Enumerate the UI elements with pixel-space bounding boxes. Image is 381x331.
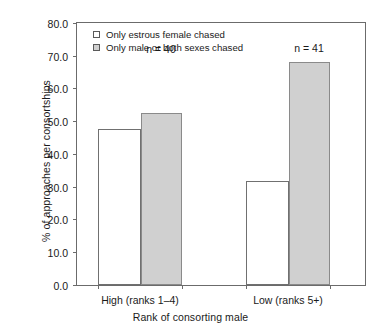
y-tick-0: 0.0 (38, 276, 77, 294)
y-tick-40: 40.0 (38, 145, 77, 163)
plot-area: 80.0 70.0 60.0 50.0 40.0 30.0 20.0 10.0 … (76, 22, 366, 286)
legend-entry-only-estrous-female-chased: Only estrous female chased (93, 28, 243, 41)
y-tick-10: 10.0 (38, 243, 77, 261)
y-tick-label: 70.0 (38, 51, 73, 63)
y-tick-mark (73, 285, 77, 286)
y-tick-50: 50.0 (38, 112, 77, 130)
y-tick-mark (73, 187, 77, 188)
y-tick-label: 0.0 (38, 280, 73, 292)
bar-high-only-male-or-both-sexes-chased (141, 113, 182, 285)
bar-low-only-estrous-female-chased (246, 181, 289, 285)
bar-high-only-estrous-female-chased (98, 129, 141, 285)
bar-chart-figure: % of approaches per consortships 80.0 70… (0, 0, 381, 331)
y-tick-mark (73, 219, 77, 220)
x-axis-label-high: High (ranks 1–4) (101, 294, 179, 306)
legend-label: Only estrous female chased (106, 28, 225, 41)
y-tick-30: 30.0 (38, 178, 77, 196)
x-tick-mark-high-end (182, 285, 183, 289)
x-tick-mark-low-end (330, 285, 331, 289)
y-tick-label: 30.0 (38, 182, 73, 194)
annotation-n-low: n = 41 (294, 42, 324, 54)
x-axis-title: Rank of consorting male (0, 311, 381, 323)
y-tick-label: 80.0 (38, 18, 73, 30)
annotation-n-high: n = 40 (146, 43, 176, 55)
y-tick-label: 50.0 (38, 116, 73, 128)
y-tick-80: 80.0 (38, 14, 77, 32)
y-tick-mark (73, 154, 77, 155)
y-tick-mark (73, 252, 77, 253)
x-tick-mark-left-edge (98, 285, 99, 289)
y-tick-mark (73, 56, 77, 57)
x-axis-label-low: Low (ranks 5+) (253, 294, 323, 306)
y-tick-20: 20.0 (38, 211, 77, 229)
legend-swatch-grey-icon (93, 44, 100, 51)
bar-low-only-male-or-both-sexes-chased (289, 62, 330, 285)
y-tick-70: 70.0 (38, 47, 77, 65)
y-tick-label: 40.0 (38, 149, 73, 161)
y-tick-mark (73, 88, 77, 89)
y-tick-mark (73, 121, 77, 122)
y-tick-mark (73, 23, 77, 24)
legend-swatch-white-icon (93, 31, 100, 38)
y-tick-label: 20.0 (38, 214, 73, 226)
x-tick-mark-low-start (246, 285, 247, 289)
y-tick-label: 60.0 (38, 83, 73, 95)
y-tick-60: 60.0 (38, 80, 77, 98)
y-tick-label: 10.0 (38, 247, 73, 259)
